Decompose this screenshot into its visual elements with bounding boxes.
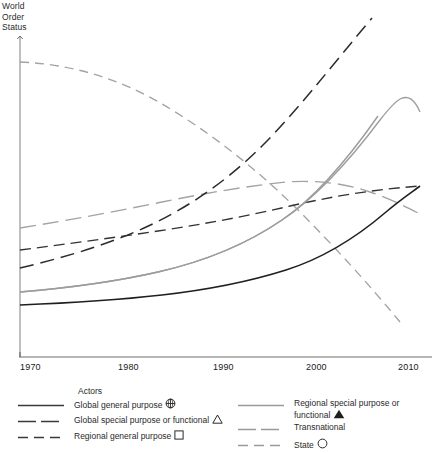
legend-label-global-special-purpose: Global special purpose or functional — [74, 414, 223, 426]
square-outline-icon — [174, 430, 184, 440]
triangle-outline-icon — [212, 414, 223, 424]
legend-item-regional-special-purpose[interactable]: Regional special purpose or functional — [238, 399, 428, 423]
series-line-regional-special-purpose-upper — [20, 116, 378, 292]
legend-label-regional-general-purpose: Regional general purpose — [74, 430, 184, 442]
legend-label-regional-special-purpose: Regional special purpose or — [294, 398, 399, 409]
x-tick-2010: 2010 — [398, 362, 419, 372]
legend-swatch-longdash-dark — [18, 420, 64, 423]
legend-swatch-dash-dark — [18, 436, 64, 439]
series-line-global-special-purpose — [20, 18, 372, 268]
legend-item-state[interactable]: State — [238, 439, 428, 453]
globe-icon — [165, 398, 176, 409]
x-tick-1970: 1970 — [20, 362, 41, 372]
legend-item-regional-general-purpose[interactable]: Regional general purpose — [18, 431, 218, 445]
legend-swatch-longdash-light — [238, 428, 284, 431]
series-line-global-general-purpose — [20, 186, 420, 305]
triangle-filled-icon — [333, 409, 345, 419]
legend-label-transnational: Transnational — [294, 422, 345, 433]
legend-label-global-general-purpose: Global general purpose — [74, 398, 176, 411]
legend-label-state: State — [294, 438, 328, 451]
series-line-regional-special-purpose — [20, 97, 420, 292]
x-tick-2000: 2000 — [306, 362, 327, 372]
series-line-state — [20, 62, 400, 322]
circle-outline-icon — [317, 438, 328, 449]
legend-swatch-dash-light — [238, 444, 284, 447]
legend-item-global-general-purpose[interactable]: Global general purpose — [18, 399, 218, 413]
legend-title: Actors — [78, 386, 102, 396]
legend-label-regional-special-purpose-line2: functional — [294, 409, 345, 421]
legend-swatch-solid-light — [238, 404, 284, 407]
series-line-transnational — [20, 181, 420, 228]
chart-legend: Actors Global general purpose Global spe… — [0, 386, 432, 442]
x-tick-1980: 1980 — [118, 362, 139, 372]
legend-swatch-solid-dark — [18, 404, 64, 407]
x-tick-1990: 1990 — [213, 362, 234, 372]
legend-item-global-special-purpose[interactable]: Global special purpose or functional — [18, 415, 233, 429]
plot-area — [0, 0, 432, 380]
legend-item-transnational[interactable]: Transnational — [238, 423, 428, 437]
